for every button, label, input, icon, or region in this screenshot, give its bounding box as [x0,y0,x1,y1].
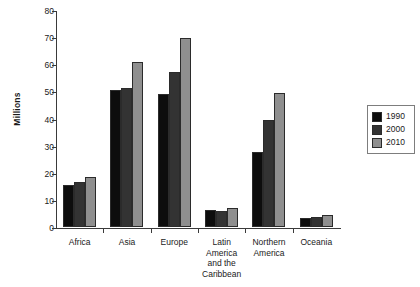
legend-swatch [372,138,382,148]
bar-group [245,10,292,227]
y-tick-label: 0 [24,224,54,233]
bar [158,94,169,227]
legend-swatch [372,125,382,135]
legend-label: 2000 [386,125,405,134]
bar [74,182,85,227]
legend: 199020002010 [367,105,415,154]
bar-group [56,10,103,227]
bar-group [198,10,245,227]
bar [85,177,96,227]
bar [180,38,191,227]
x-tick-mark [103,229,104,233]
x-tick-label: Oceania [278,237,354,248]
bar [263,120,274,227]
bar-group [103,10,150,227]
x-tick-mark [293,229,294,233]
x-tick-mark [151,229,152,233]
bar [110,90,121,227]
bar-chart: Millions 01020304050607080 AfricaAsiaEur… [0,0,420,287]
y-tick-label: 10 [24,197,54,206]
y-tick-label: 30 [24,142,54,151]
legend-item: 1990 [372,110,410,123]
legend-label: 1990 [386,112,405,121]
y-tick-label: 60 [24,61,54,70]
y-tick-mark [52,228,56,229]
y-tick-label: 40 [24,115,54,124]
bar [132,62,143,227]
y-tick-label: 70 [24,34,54,43]
bar [300,218,311,227]
bar [216,211,227,227]
x-tick-mark [245,229,246,233]
bar [121,88,132,227]
legend-label: 2010 [386,138,405,147]
legend-item: 2000 [372,123,410,136]
bar [322,215,333,227]
bar-group [293,10,340,227]
x-tick-mark [198,229,199,233]
y-axis-title: Millions [12,69,22,149]
plot-area: 01020304050607080 AfricaAsiaEuropeLatin … [56,11,340,228]
bar [274,93,285,227]
legend-item: 2010 [372,136,410,149]
bar [311,217,322,227]
y-tick-label: 50 [24,88,54,97]
bar [169,72,180,227]
legend-swatch [372,112,382,122]
bar [252,152,263,227]
bar [63,185,74,227]
bar-group [151,10,198,227]
bar [227,208,238,227]
y-tick-label: 80 [24,7,54,16]
y-tick-label: 20 [24,170,54,179]
bar [205,210,216,227]
